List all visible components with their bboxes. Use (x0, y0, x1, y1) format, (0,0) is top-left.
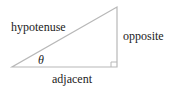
right-triangle-diagram: hypotenuse opposite θ adjacent (0, 0, 175, 88)
hypotenuse-label: hypotenuse (11, 20, 66, 34)
angle-theta-label: θ (38, 53, 44, 67)
right-angle-marker (111, 62, 117, 67)
triangle-shape (12, 7, 117, 67)
adjacent-label: adjacent (52, 72, 93, 86)
opposite-label: opposite (123, 29, 164, 43)
